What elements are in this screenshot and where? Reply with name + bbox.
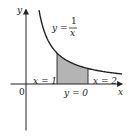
y-axis-label: y bbox=[16, 5, 23, 15]
curve-label-numerator: 1 bbox=[71, 16, 77, 26]
area-under-curve-chart: y x 0 y = 1 x x = 1 x = 2 y = 0 bbox=[0, 0, 135, 137]
curve-y-equals-1-over-x bbox=[39, 10, 122, 74]
x-axis-label: x bbox=[118, 87, 123, 97]
curve-label: y = 1 x bbox=[51, 16, 77, 38]
origin-label: 0 bbox=[19, 87, 25, 97]
boundary-label-x-equals-1: x = 1 bbox=[33, 76, 57, 86]
curve-label-denominator: x bbox=[70, 28, 75, 38]
curve-label-lhs: y = bbox=[51, 23, 68, 33]
boundary-label-x-equals-2: x = 2 bbox=[93, 76, 117, 86]
boundary-label-y-equals-0: y = 0 bbox=[63, 88, 88, 98]
